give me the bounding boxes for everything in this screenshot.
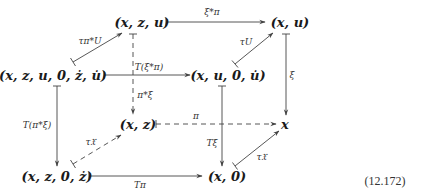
arrow-x0-to-x xyxy=(233,131,280,170)
label-pi: π xyxy=(193,112,199,121)
label-pi-star-xi: π*ξ xyxy=(137,91,152,100)
arrow-xu0u-to-x0 xyxy=(218,86,226,166)
label-xi-star-pi: ξ*π xyxy=(204,8,219,17)
commutative-diagram: (x, z, u) (x, u) (x, z, u, 0, ż, u̇) (x,… xyxy=(0,0,421,196)
node-xzu: (x, z, u) xyxy=(115,16,170,29)
diagram-arrows xyxy=(0,0,421,196)
equation-number: (12.172) xyxy=(365,174,406,189)
label-xi: ξ xyxy=(290,71,295,80)
label-tau-u: τU xyxy=(240,38,253,47)
node-xu: (x, u) xyxy=(271,16,310,29)
label-tau-x-right: τ𝔛 xyxy=(257,153,268,162)
node-xzu0zu: (x, z, u, 0, ż, u̇) xyxy=(0,69,107,82)
node-xz0z: (x, z, 0, ż) xyxy=(21,170,92,183)
label-T-pi-star-xi: T(π*ξ) xyxy=(23,121,51,130)
node-xz: (x, z) xyxy=(120,118,157,131)
arrow-xzu0zu-to-xz0z xyxy=(53,86,61,166)
node-x0: (x, 0) xyxy=(208,170,246,183)
arrow-xzu-to-xu xyxy=(166,18,265,26)
label-T-pi: Tπ xyxy=(134,181,146,190)
label-tau-pi-star-u: τπ*U xyxy=(79,37,102,46)
arrow-xzu0zu-to-xu0u xyxy=(104,71,190,79)
label-tau-x-left: τ𝔛 xyxy=(86,138,97,147)
node-x: x xyxy=(281,118,289,131)
arrow-xz-to-x xyxy=(156,120,276,128)
label-T-xi-star-pi: T(ξ*π) xyxy=(135,63,163,72)
label-T-xi: Tξ xyxy=(207,139,218,148)
arrow-xzu-to-xz xyxy=(129,34,137,114)
node-xu0u: (x, u, 0, u̇) xyxy=(190,69,265,82)
